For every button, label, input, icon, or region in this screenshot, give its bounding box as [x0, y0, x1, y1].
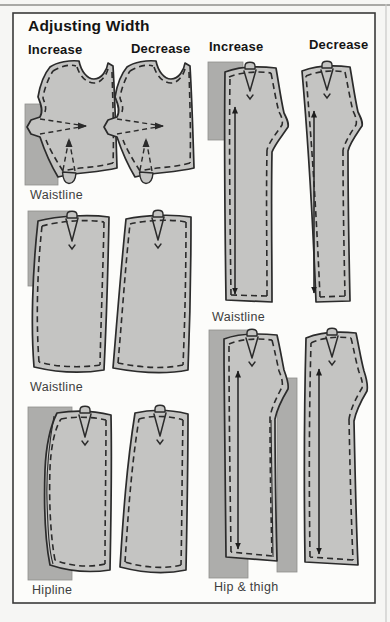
skirt-pattern-piece	[113, 215, 191, 372]
column-header-decrease-left: Decrease	[131, 41, 190, 56]
row-label-skirt-waistline: Waistline	[30, 380, 83, 394]
waist-notch-tab	[247, 329, 257, 336]
skirt-waist-decrease-figure	[113, 210, 191, 372]
row-label-skirt-hipline: Hipline	[32, 583, 72, 597]
waist-notch-tab	[245, 62, 255, 69]
tissue-backing-paper-right	[277, 378, 297, 572]
waist-notch-tab	[322, 61, 332, 68]
column-header-decrease-right: Decrease	[309, 37, 368, 52]
page-title: Adjusting Width	[28, 17, 150, 35]
waist-dart-tab	[63, 172, 77, 184]
row-label-bodice-waistline: Waistline	[30, 188, 83, 202]
adjusting-width-diagram	[0, 0, 390, 622]
waist-notch-tab	[327, 328, 337, 335]
column-header-increase-left: Increase	[28, 42, 82, 57]
waist-dart-tab	[140, 172, 154, 184]
row-label-pants-hip-thigh: Hip & thigh	[214, 580, 278, 594]
waist-notch-tab	[67, 211, 77, 218]
skirt-pattern-piece	[32, 216, 109, 373]
waist-notch-tab	[80, 406, 90, 413]
column-header-increase-right: Increase	[209, 39, 263, 54]
skirt-hip-increase-figure	[28, 406, 111, 580]
waist-notch-tab	[155, 405, 165, 412]
page: Adjusting Width Increase Decrease Increa…	[0, 0, 390, 622]
row-label-pants-waistline: Waistline	[212, 310, 265, 324]
waist-notch-tab	[153, 210, 163, 217]
skirt-waist-increase-figure	[28, 211, 109, 372]
pants-hip-increase-figure	[209, 329, 297, 578]
